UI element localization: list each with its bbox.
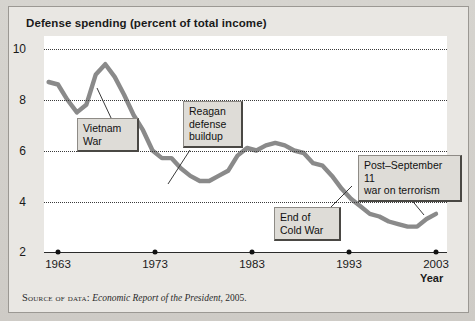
annotation-war-on-terrorism: Post–September 11 war on terrorism (358, 155, 462, 202)
y-tick-4: 4 (0, 195, 26, 209)
x-tick-label-1973: 1973 (142, 258, 168, 270)
y-tick-10: 10 (0, 42, 26, 56)
annotation-vietnam-war: Vietnam War (77, 118, 139, 152)
y-tick-6: 6 (0, 144, 26, 158)
figure-root: Defense spending (percent of total incom… (0, 0, 475, 321)
y-tick-8: 8 (0, 93, 26, 107)
annotation-end-of-cold-war: End of Cold War (274, 207, 341, 241)
x-tick-dot-1963 (56, 250, 61, 255)
x-tick-label-1983: 1983 (239, 258, 265, 270)
x-tick-dot-2003 (434, 250, 439, 255)
x-tick-label-2003: 2003 (423, 258, 449, 270)
source-suffix: , 2005. (221, 293, 247, 303)
x-tick-dot-1983 (250, 250, 255, 255)
source-title: Economic Report of the President (92, 293, 220, 303)
x-axis-title: Year (420, 272, 443, 284)
y-tick-2: 2 (0, 245, 26, 259)
x-tick-dot-1973 (153, 250, 158, 255)
x-tick-dot-1993 (347, 250, 352, 255)
x-tick-label-1963: 1963 (45, 258, 71, 270)
source-note: Source of data: Economic Report of the P… (22, 292, 247, 303)
x-axis-line (44, 252, 447, 253)
x-tick-label-1993: 1993 (336, 258, 362, 270)
source-prefix: Source of data: (22, 292, 90, 303)
annotation-reagan-buildup: Reagan defense buildup (183, 101, 243, 148)
